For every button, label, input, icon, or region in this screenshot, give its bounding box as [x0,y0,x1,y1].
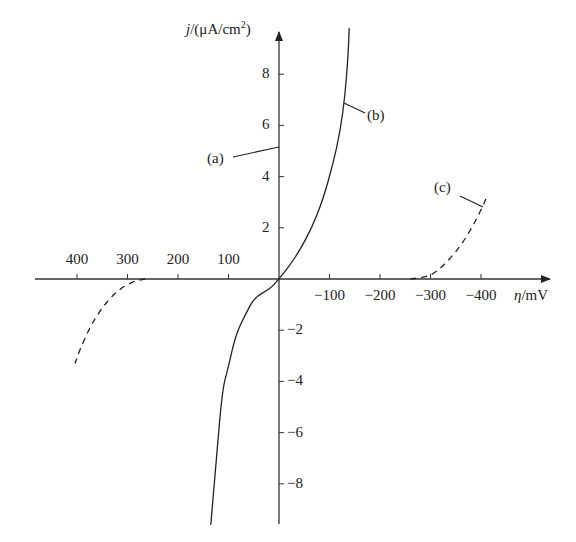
y-tick-label: −8 [287,476,303,491]
y-tick-label: −2 [287,322,303,337]
y-tick-label: 2 [262,220,270,235]
y-tick-label: −4 [287,373,303,388]
y-tick-label: 8 [262,66,270,81]
x-tick-label: 200 [167,252,190,267]
curve-c-anodic [75,279,145,363]
x-tick-label: −300 [415,288,446,303]
y-tick-label: 4 [262,169,270,184]
x-axis-label: η/mV [514,288,548,303]
x-tick-label: −100 [314,288,345,303]
curve-c-cathodic [410,195,487,279]
annotation-c: (c) [434,180,451,195]
y-axis-unit-close: ) [246,21,251,37]
leader-b [344,103,365,113]
y-axis-label: j/(μA/cm2) [186,20,251,37]
y-tick-label: −6 [287,425,303,440]
leader-a [233,147,279,157]
x-tick-label: −400 [466,288,497,303]
x-tick-label: 400 [66,252,89,267]
y-axis-unit: /(μA/cm [190,21,241,37]
annotation-b: (b) [367,108,385,123]
x-tick-label: −200 [365,288,396,303]
curve-b [211,28,349,525]
x-tick-label: 300 [116,252,139,267]
x-tick-label: 100 [217,252,240,267]
x-axis-unit: /mV [521,287,548,303]
y-tick-label: 6 [262,117,270,132]
annotation-a: (a) [207,151,224,166]
polarization-chart [0,0,576,542]
leader-c [460,196,483,207]
